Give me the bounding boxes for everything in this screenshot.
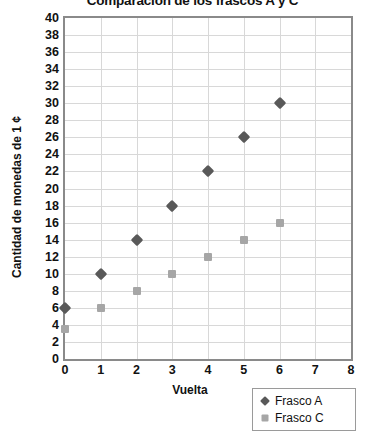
data-point-frasco-a: [273, 97, 286, 110]
legend-label: Frasco A: [275, 394, 322, 408]
gridline-vertical: [244, 18, 245, 359]
chart-legend: Frasco A Frasco C: [252, 388, 356, 431]
data-point-frasco-a: [130, 233, 143, 246]
data-point-frasco-c: [204, 253, 212, 261]
gridline-vertical: [280, 18, 281, 359]
data-point-frasco-a: [94, 267, 107, 280]
y-tick-label: 16: [19, 217, 59, 230]
x-tick-label: 8: [336, 364, 366, 377]
y-tick-label: 4: [19, 319, 59, 332]
data-point-frasco-a: [166, 199, 179, 212]
y-tick-label: 30: [19, 97, 59, 110]
x-tick-label: 5: [229, 364, 259, 377]
data-point-frasco-a: [202, 165, 215, 178]
legend-label: Frasco C: [275, 411, 324, 425]
x-tick-label: 3: [157, 364, 187, 377]
y-tick-label: 18: [19, 200, 59, 213]
diamond-marker-icon: [259, 395, 271, 407]
y-tick-label: 34: [19, 63, 59, 76]
y-tick-label: 8: [19, 285, 59, 298]
x-tick-label: 6: [265, 364, 295, 377]
chart-title: Comparación de los frascos A y C: [0, 0, 385, 8]
y-tick-label: 6: [19, 302, 59, 315]
x-tick-label: 0: [50, 364, 80, 377]
y-tick-label: 36: [19, 46, 59, 59]
x-tick-label: 7: [300, 364, 330, 377]
plot-area: [63, 16, 353, 361]
y-tick-label: 20: [19, 183, 59, 196]
x-tick-label: 2: [122, 364, 152, 377]
gridline-vertical: [172, 18, 173, 359]
data-point-frasco-c: [276, 219, 284, 227]
y-tick-label: 28: [19, 114, 59, 127]
data-point-frasco-c: [168, 270, 176, 278]
data-point-frasco-c: [133, 287, 141, 295]
legend-item-frasco-c: Frasco C: [259, 409, 350, 426]
x-tick-label: 1: [86, 364, 116, 377]
square-marker-icon: [259, 412, 271, 424]
y-tick-label: 12: [19, 251, 59, 264]
data-point-frasco-a: [59, 301, 72, 314]
y-tick-label: 22: [19, 165, 59, 178]
data-point-frasco-c: [61, 325, 69, 333]
data-point-frasco-c: [97, 304, 105, 312]
gridline-vertical: [137, 18, 138, 359]
chart-container: Comparación de los frascos A y C Cantida…: [0, 0, 385, 432]
y-tick-label: 24: [19, 148, 59, 161]
y-tick-label: 26: [19, 131, 59, 144]
x-axis-label: Vuelta: [150, 383, 230, 397]
data-point-frasco-a: [237, 131, 250, 144]
y-tick-label: 14: [19, 234, 59, 247]
y-tick-label: 2: [19, 336, 59, 349]
y-tick-label: 40: [19, 12, 59, 25]
gridline-vertical: [208, 18, 209, 359]
legend-item-frasco-a: Frasco A: [259, 392, 350, 409]
gridline-vertical: [315, 18, 316, 359]
y-tick-label: 10: [19, 268, 59, 281]
y-tick-label: 32: [19, 80, 59, 93]
x-tick-label: 4: [193, 364, 223, 377]
y-tick-label: 38: [19, 29, 59, 42]
data-point-frasco-c: [240, 236, 248, 244]
